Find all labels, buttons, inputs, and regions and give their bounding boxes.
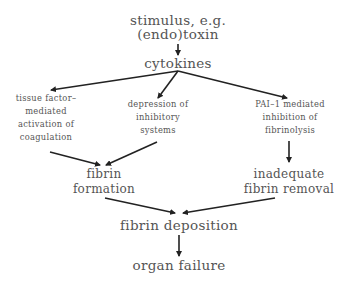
node-tissue-factor-line-4: coagulation: [6, 131, 86, 144]
node-stimulus: stimulus, e.g. (endo)toxin: [118, 13, 238, 41]
arrow-cytokines-to-tissue-factor: [51, 71, 178, 90]
node-pai1-line-3: fibrinolysis: [243, 124, 337, 137]
node-tissue-factor: tissue factor– mediated activation of co…: [6, 92, 86, 144]
node-tissue-factor-line-3: activation of: [6, 118, 86, 131]
node-stimulus-line-1: stimulus, e.g.: [118, 13, 238, 27]
node-fibrin-formation: fibrin formation: [58, 167, 150, 197]
node-cytokines-label: cytokines: [128, 56, 228, 70]
node-organ-failure: organ failure: [119, 258, 239, 272]
arrow-cytokines-to-pai1: [178, 71, 287, 98]
node-inadequate-removal-line-2: fibrin removal: [234, 182, 344, 197]
arrow-cytokines-to-depression: [158, 71, 178, 98]
node-pai1: PAI–1 mediated inhibition of fibrinolysi…: [243, 98, 337, 137]
node-tissue-factor-line-2: mediated: [6, 105, 86, 118]
node-depression-line-1: depression of: [114, 98, 202, 111]
arrow-inadequate-removal-to-deposition: [183, 198, 275, 213]
node-inadequate-removal-line-1: inadequate: [234, 167, 344, 182]
node-pai1-line-1: PAI–1 mediated: [243, 98, 337, 111]
node-organ-failure-label: organ failure: [119, 258, 239, 272]
node-depression: depression of inhibitory systems: [114, 98, 202, 137]
node-fibrin-formation-line-1: fibrin: [58, 167, 150, 182]
node-tissue-factor-line-1: tissue factor–: [6, 92, 86, 105]
arrow-depression-to-fibrin-formation: [106, 142, 157, 165]
node-cytokines: cytokines: [128, 56, 228, 70]
arrow-fibrin-formation-to-deposition: [105, 198, 175, 213]
node-depression-line-3: systems: [114, 124, 202, 137]
node-fibrin-deposition: fibrin deposition: [104, 218, 254, 232]
node-pai1-line-2: inhibition of: [243, 111, 337, 124]
node-inadequate-removal: inadequate fibrin removal: [234, 167, 344, 197]
arrow-tissue-factor-to-fibrin-formation: [50, 152, 100, 165]
node-fibrin-deposition-label: fibrin deposition: [104, 218, 254, 232]
node-fibrin-formation-line-2: formation: [58, 182, 150, 197]
diagram-canvas: stimulus, e.g. (endo)toxin cytokines tis…: [0, 0, 344, 283]
node-depression-line-2: inhibitory: [114, 111, 202, 124]
node-stimulus-line-2: (endo)toxin: [118, 27, 238, 41]
